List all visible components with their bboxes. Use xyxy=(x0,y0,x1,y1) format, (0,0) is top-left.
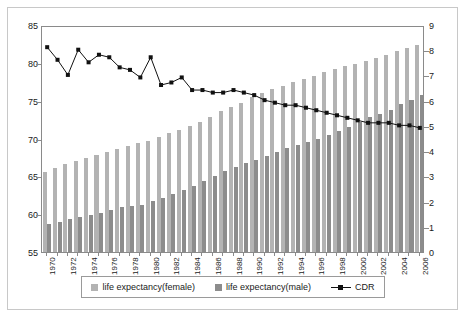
x-tick-mark-1979 xyxy=(139,253,140,256)
legend-line-icon xyxy=(331,284,351,291)
cdr-marker-1970 xyxy=(45,45,49,49)
legend-label: life expectancy(male) xyxy=(226,282,311,292)
bar-male-2000 xyxy=(358,122,362,252)
x-tick-mark-1993 xyxy=(284,253,285,256)
x-tick-mark-1981 xyxy=(160,253,161,256)
cdr-marker-1974 xyxy=(87,60,91,64)
y-tick-label-right-1: 1 xyxy=(429,223,451,232)
x-tick-mark-1977 xyxy=(119,253,120,256)
bar-male-1987 xyxy=(223,171,227,252)
x-tick-mark-2003 xyxy=(388,253,389,256)
bar-female-2006 xyxy=(415,45,419,252)
legend-label: CDR xyxy=(355,282,375,292)
y-tick-label-left-75: 75 xyxy=(12,97,38,106)
cdr-marker-1973 xyxy=(76,48,80,52)
bar-female-1978 xyxy=(126,146,130,252)
x-tick-mark-2000 xyxy=(357,253,358,256)
y-tick-label-left-60: 60 xyxy=(12,211,38,220)
x-tick-label-1970: 1970 xyxy=(49,257,57,275)
cdr-marker-1982 xyxy=(169,80,173,84)
bar-female-1999 xyxy=(343,66,347,252)
x-tick-mark-1978 xyxy=(129,253,130,256)
legend-swatch-icon xyxy=(91,284,98,291)
x-tick-label-2000: 2000 xyxy=(360,257,368,275)
legend-label: life expectancy(female) xyxy=(102,282,195,292)
bar-female-1987 xyxy=(219,111,223,252)
bar-female-1988 xyxy=(229,107,233,252)
bar-male-1986 xyxy=(213,176,217,252)
y-tick-label-left-85: 85 xyxy=(12,22,38,31)
x-tick-label-1980: 1980 xyxy=(153,257,161,275)
x-tick-label-1994: 1994 xyxy=(298,257,306,275)
bar-female-1973 xyxy=(74,161,78,252)
bar-male-1988 xyxy=(234,167,238,252)
bar-male-1972 xyxy=(68,219,72,252)
bar-male-1991 xyxy=(265,156,269,252)
cdr-marker-1980 xyxy=(149,55,153,59)
legend-item-1: life expectancy(male) xyxy=(215,282,311,292)
bar-female-1993 xyxy=(281,86,285,252)
bar-female-2004 xyxy=(395,51,399,252)
chart-figure: 55606570758085 0123456789 19701972197419… xyxy=(0,0,467,323)
bar-female-1975 xyxy=(94,155,98,252)
bar-female-2001 xyxy=(364,61,368,252)
bar-female-1980 xyxy=(146,141,150,252)
x-tick-mark-1984 xyxy=(191,253,192,256)
bar-female-1982 xyxy=(167,133,171,252)
bar-female-1989 xyxy=(239,103,243,252)
bar-male-1970 xyxy=(47,224,51,252)
y-tick-mark-right-6 xyxy=(424,102,429,103)
x-tick-mark-2002 xyxy=(377,253,378,256)
cdr-marker-1976 xyxy=(107,55,111,59)
y-tick-mark-right-3 xyxy=(424,177,429,178)
x-tick-mark-1996 xyxy=(315,253,316,256)
x-tick-mark-1974 xyxy=(88,253,89,256)
bar-female-1986 xyxy=(208,117,212,252)
y-tick-mark-right-2 xyxy=(424,203,429,204)
y-tick-label-right-0: 0 xyxy=(429,249,451,258)
cdr-marker-1971 xyxy=(56,58,60,62)
bar-male-1982 xyxy=(171,194,175,252)
y-tick-label-right-7: 7 xyxy=(429,72,451,81)
bar-female-1972 xyxy=(63,164,67,252)
y-tick-label-right-8: 8 xyxy=(429,47,451,56)
x-tick-label-2002: 2002 xyxy=(380,257,388,275)
bar-male-2005 xyxy=(409,100,413,252)
bar-female-1997 xyxy=(322,72,326,252)
bar-male-1999 xyxy=(347,127,351,252)
bar-female-1995 xyxy=(302,79,306,252)
x-tick-mark-1999 xyxy=(346,253,347,256)
bar-female-2000 xyxy=(353,64,357,252)
cdr-marker-1986 xyxy=(211,91,215,95)
bar-male-1977 xyxy=(120,207,124,252)
x-tick-label-1984: 1984 xyxy=(194,257,202,275)
x-tick-label-1976: 1976 xyxy=(111,257,119,275)
bar-male-1985 xyxy=(202,181,206,252)
y-tick-label-right-5: 5 xyxy=(429,122,451,131)
x-tick-mark-1980 xyxy=(150,253,151,256)
y-tick-label-left-80: 80 xyxy=(12,59,38,68)
y-tick-label-left-65: 65 xyxy=(12,173,38,182)
x-tick-label-1996: 1996 xyxy=(318,257,326,275)
cdr-marker-1979 xyxy=(138,75,142,79)
bar-male-1993 xyxy=(285,148,289,252)
bar-male-1998 xyxy=(337,131,341,252)
bar-male-1978 xyxy=(130,206,134,252)
x-tick-mark-1995 xyxy=(305,253,306,256)
bar-female-1985 xyxy=(198,122,202,252)
x-tick-mark-1983 xyxy=(181,253,182,256)
bar-female-1970 xyxy=(43,172,47,252)
y-tick-label-right-6: 6 xyxy=(429,97,451,106)
legend-item-0: life expectancy(female) xyxy=(91,282,195,292)
bar-male-1997 xyxy=(327,135,331,252)
bar-female-1984 xyxy=(188,126,192,252)
legend-swatch-icon xyxy=(215,284,222,291)
bar-female-1974 xyxy=(84,158,88,252)
plot-area xyxy=(41,26,424,253)
y-tick-mark-right-4 xyxy=(424,152,429,153)
x-tick-mark-1997 xyxy=(326,253,327,256)
legend-item-2: CDR xyxy=(331,282,375,292)
y-tick-label-right-2: 2 xyxy=(429,198,451,207)
bar-male-1990 xyxy=(254,160,258,252)
x-tick-mark-1982 xyxy=(170,253,171,256)
